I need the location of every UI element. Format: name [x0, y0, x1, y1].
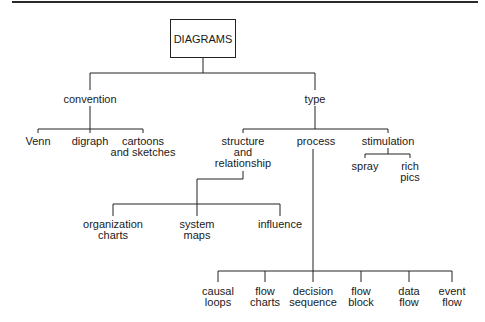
node-cartoons-and-sketches: cartoons and sketches — [111, 136, 176, 158]
node-stimulation: stimulation — [362, 136, 415, 147]
node-rich-pics: rich pics — [400, 161, 420, 183]
node-flow-charts: flow charts — [250, 286, 280, 308]
node-event-flow: event flow — [439, 286, 466, 308]
node-data-flow: data flow — [398, 286, 419, 308]
node-spray: spray — [352, 161, 379, 172]
root-node-box: DIAGRAMS — [170, 19, 236, 58]
node-influence: influence — [258, 219, 302, 230]
node-structure-and-relationship: structure and relationship — [215, 136, 271, 169]
node-process: process — [297, 136, 336, 147]
node-system-maps: system maps — [180, 219, 215, 241]
node-causal-loops: causal loops — [202, 286, 234, 308]
node-venn: Venn — [25, 136, 50, 147]
node-digraph: digraph — [72, 136, 109, 147]
node-convention: convention — [63, 94, 116, 105]
node-flow-block: flow block — [348, 286, 374, 308]
node-organization-charts: organization charts — [83, 219, 143, 241]
root-node-label: DIAGRAMS — [174, 33, 233, 45]
node-type: type — [305, 94, 326, 105]
diagram-canvas: DIAGRAMS convention type Venn digraph ca… — [0, 0, 485, 322]
node-decision-sequence: decision sequence — [289, 286, 337, 308]
